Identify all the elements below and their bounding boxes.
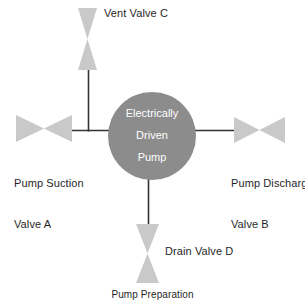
- pump-discharge-valve-b-left-triangle: [234, 117, 260, 143]
- pump-label-line1: Electrically: [126, 107, 179, 119]
- pump-suction-valve-a-left-triangle: [16, 115, 44, 142]
- vent-valve-c-upper-triangle: [78, 8, 97, 39]
- drain-valve-d-symbol[interactable]: [136, 224, 159, 283]
- vent-valve-c-lower-triangle: [78, 39, 97, 70]
- pump-discharge-valve-b-label: Pump Discharge Valve B: [231, 150, 305, 258]
- pump-discharge-valve-b-label-line2: Valve B: [231, 218, 305, 232]
- vent-valve-c-label: Vent Valve C: [104, 7, 168, 21]
- pump-suction-valve-a-symbol[interactable]: [16, 115, 72, 142]
- vent-valve-c-symbol[interactable]: [78, 8, 97, 70]
- pump-suction-valve-a-right-triangle: [44, 115, 72, 142]
- pump-preparation-diagram: Electrically Driven Pump Vent Valve C Pu…: [0, 0, 305, 305]
- pump-discharge-valve-b-symbol[interactable]: [234, 117, 285, 143]
- diagram-caption: Pump Preparation: [0, 288, 305, 302]
- pump-discharge-valve-b-right-triangle: [260, 117, 286, 143]
- pump-suction-valve-a-label: Pump Suction Valve A: [14, 150, 84, 258]
- electrically-driven-pump[interactable]: Electrically Driven Pump: [108, 92, 196, 180]
- pump-discharge-valve-b-label-line1: Pump Discharge: [231, 177, 305, 191]
- pump-label-line3: Pump: [138, 151, 167, 163]
- pump-label-line2: Driven: [136, 129, 168, 141]
- drain-valve-d-upper-triangle: [136, 224, 159, 254]
- drain-valve-d-label: Drain Valve D: [165, 245, 233, 259]
- pump-suction-valve-a-label-line2: Valve A: [14, 218, 84, 232]
- pump-suction-valve-a-label-line1: Pump Suction: [14, 177, 84, 191]
- drain-valve-d-lower-triangle: [136, 254, 159, 284]
